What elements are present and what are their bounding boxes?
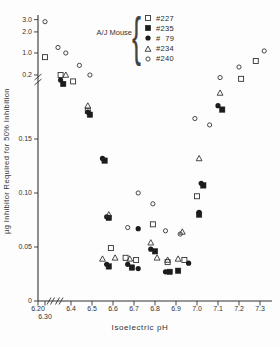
legend-entry-label: #227: [156, 14, 174, 23]
data-point-227: [150, 222, 155, 227]
data-point-234: [112, 255, 118, 260]
open-triangle-icon: [143, 44, 153, 54]
filled-circle-icon: [143, 33, 153, 43]
open-circle-icon: [143, 54, 153, 64]
y-tick-label: 3.0: [6, 16, 32, 24]
data-point-234: [154, 255, 160, 260]
data-point-240: [151, 202, 155, 206]
data-point-235: [220, 107, 225, 112]
data-point-240: [262, 49, 266, 53]
filled-square-icon: [143, 23, 153, 33]
data-point-79: [136, 226, 141, 231]
data-point-234: [196, 155, 202, 160]
data-point-240: [88, 73, 92, 77]
data-point-227: [58, 73, 63, 78]
data-point-79: [215, 103, 220, 108]
data-point-79: [136, 266, 141, 271]
data-point-234: [217, 90, 223, 95]
data-point-240: [56, 45, 60, 49]
data-point-234: [175, 256, 181, 261]
data-point-227: [253, 58, 258, 63]
data-point-227: [43, 55, 48, 60]
legend-entry-label: #235: [156, 24, 174, 33]
data-point-240: [193, 116, 197, 120]
data-point-235: [129, 265, 134, 270]
data-point-79: [104, 262, 109, 267]
data-point-240: [77, 63, 81, 67]
data-point-234: [85, 103, 91, 108]
data-point-240: [126, 225, 130, 229]
data-point-79: [100, 156, 105, 161]
data-point-240: [208, 123, 212, 127]
legend-entry: # 79: [143, 33, 174, 43]
legend-entry-label: #234: [156, 44, 174, 53]
scatter-figure: 6.206.306.46.56.66.76.86.97.07.17.27.300…: [0, 0, 280, 347]
y-axis-title: µg Inhibitor Required for 50% Inhibition: [2, 56, 14, 266]
data-point-235: [175, 268, 180, 273]
data-point-240: [163, 229, 167, 233]
data-point-227: [108, 246, 113, 251]
legend-group-label: A/J Mouse: [86, 28, 132, 37]
data-point-79: [186, 261, 191, 266]
data-point-240: [218, 75, 222, 79]
y-tick-label: 2.0: [6, 28, 32, 36]
legend-entry: #240: [143, 54, 174, 64]
x-axis-title: Isoelectric pH: [95, 323, 185, 332]
x-tick-label: 6.20: [26, 305, 50, 313]
data-point-227: [195, 194, 200, 199]
open-square-icon: [143, 13, 153, 23]
data-point-79: [197, 210, 202, 215]
data-point-240: [237, 65, 241, 69]
data-point-240: [136, 191, 140, 195]
data-point-227: [182, 257, 187, 262]
data-point-240: [64, 51, 68, 55]
data-point-240: [43, 20, 47, 24]
legend-entry: #235: [143, 23, 174, 33]
x-tick-label: 7.3: [248, 305, 272, 313]
legend-entry-label: # 79: [156, 34, 174, 43]
data-point-79: [58, 78, 63, 83]
data-point-227: [134, 257, 139, 262]
data-point-234: [63, 72, 69, 77]
data-point-79: [148, 247, 153, 252]
legend-entry: #234: [143, 44, 174, 54]
data-point-79: [199, 181, 204, 186]
x-tick-label: 6.30: [33, 313, 57, 321]
legend-entry: #227: [143, 13, 174, 23]
legend-entry-label: #240: [156, 54, 174, 63]
data-point-234: [100, 256, 106, 261]
data-point-79: [125, 262, 130, 267]
legend: #227#235# 79#234#240: [143, 13, 174, 64]
data-point-227: [71, 79, 76, 84]
y-tick-label: 0: [6, 297, 32, 305]
data-point-234: [148, 240, 154, 245]
data-point-227: [239, 76, 244, 81]
legend-brace-icon: {: [132, 10, 141, 62]
data-point-79: [163, 269, 168, 274]
data-point-79: [85, 110, 90, 115]
